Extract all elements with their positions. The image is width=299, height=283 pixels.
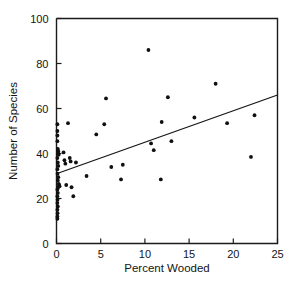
data-point — [56, 164, 60, 168]
data-point — [70, 185, 74, 189]
data-point — [55, 134, 59, 138]
data-point — [249, 155, 253, 159]
data-point — [56, 179, 60, 183]
data-point — [55, 167, 59, 171]
data-point — [57, 153, 61, 157]
x-axis-tick-labels: 0510152025 — [53, 248, 283, 260]
data-point — [56, 175, 60, 179]
data-point — [56, 211, 60, 215]
x-tick-label: 0 — [53, 248, 59, 260]
data-point — [55, 188, 59, 192]
data-point — [63, 158, 67, 162]
data-point — [55, 217, 59, 221]
y-tick-label: 0 — [42, 238, 48, 250]
data-point — [94, 132, 98, 136]
plot-frame — [57, 19, 278, 244]
data-points-layer — [55, 48, 256, 221]
x-tick-label: 20 — [227, 248, 239, 260]
data-point — [55, 129, 59, 133]
data-point — [193, 116, 197, 120]
data-point — [56, 161, 60, 165]
y-tick-label: 40 — [36, 148, 48, 160]
data-point — [214, 82, 218, 86]
data-point — [119, 177, 123, 181]
data-point — [56, 198, 60, 202]
data-point — [55, 194, 59, 198]
scatter-plot-figure: 020406080100 0510152025 Percent Wooded N… — [0, 0, 299, 283]
regression-line-segment — [57, 95, 278, 174]
data-point — [104, 96, 108, 100]
data-point — [253, 113, 257, 117]
data-point — [159, 177, 163, 181]
y-tick-label: 60 — [36, 103, 48, 115]
data-point — [149, 141, 153, 145]
plot-canvas: 020406080100 0510152025 Percent Wooded N… — [0, 0, 299, 283]
data-point — [56, 172, 60, 176]
data-point — [55, 201, 59, 205]
x-tick-label: 10 — [139, 248, 151, 260]
data-point — [74, 161, 78, 165]
data-point — [166, 95, 170, 99]
x-tick-label: 25 — [271, 248, 283, 260]
data-point — [63, 162, 67, 166]
data-point — [56, 204, 60, 208]
y-tick-label: 80 — [36, 58, 48, 70]
data-point — [225, 121, 229, 125]
data-point — [71, 194, 75, 198]
data-point — [152, 148, 156, 152]
y-tick-label: 100 — [30, 13, 48, 25]
data-point — [55, 208, 59, 212]
data-point — [56, 191, 60, 195]
data-point — [69, 159, 73, 163]
data-point — [170, 139, 174, 143]
data-point — [55, 139, 59, 143]
data-point — [121, 163, 125, 167]
x-tick-label: 15 — [183, 248, 195, 260]
data-point — [55, 156, 59, 160]
data-point — [102, 122, 106, 126]
data-point — [68, 156, 72, 160]
x-tick-label: 5 — [98, 248, 104, 260]
data-point — [66, 121, 70, 125]
data-point — [147, 48, 151, 52]
data-point — [62, 150, 66, 154]
data-point — [64, 183, 68, 187]
x-axis-title: Percent Wooded — [124, 262, 209, 274]
data-point — [55, 122, 59, 126]
y-axis-tick-labels: 020406080100 — [30, 13, 48, 250]
data-point — [85, 174, 89, 178]
y-tick-label: 20 — [36, 193, 48, 205]
y-axis-title: Number of Species — [7, 82, 19, 180]
data-point — [160, 120, 164, 124]
regression-line — [57, 95, 278, 174]
data-point — [109, 165, 113, 169]
x-axis-ticks — [57, 239, 278, 244]
